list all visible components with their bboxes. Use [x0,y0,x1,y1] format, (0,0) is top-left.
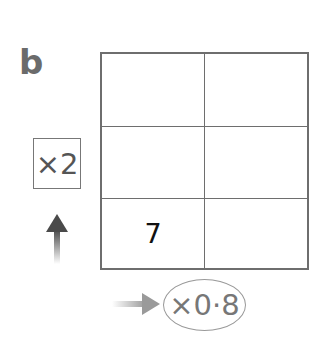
horizontal-multiplier-ellipse: ×0·8 [163,279,246,331]
right-arrow-icon [112,293,160,315]
grid-cell-r1-c2 [205,54,307,127]
ratio-grid: 7 [100,52,309,270]
grid-cell-r3-c1: 7 [102,199,205,268]
grid-cell-r2-c2 [205,127,307,199]
vertical-multiplier-box: ×2 [33,138,81,189]
grid-cell-r2-c1 [102,127,205,199]
up-arrow-icon [45,214,69,264]
grid-cell-r3-c2 [205,199,307,268]
panel-label: b [19,42,43,82]
grid-cell-r1-c1 [102,54,205,127]
